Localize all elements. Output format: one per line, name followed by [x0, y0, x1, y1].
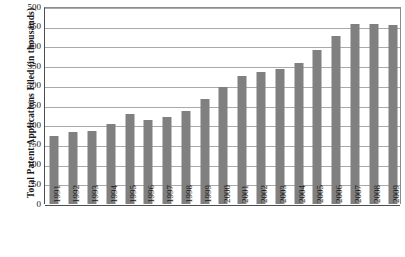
y-tick-label: 250	[20, 101, 41, 110]
bar-slot	[308, 8, 327, 204]
bar	[388, 25, 397, 204]
plot-area	[44, 7, 401, 204]
bar-chart: Total Patent Applications Filed (in thou…	[0, 0, 405, 257]
y-tick-label: 400	[20, 42, 41, 51]
y-tick-label: 300	[20, 81, 41, 90]
bar	[313, 50, 322, 204]
y-axis-tick-labels: 500450400350300250200150100500	[20, 7, 41, 204]
y-tick-label: 500	[20, 3, 41, 12]
bar-slot	[327, 8, 346, 204]
bar-slot	[233, 8, 252, 204]
x-axis-tick-labels: 1991199219931994199519961997199819992000…	[44, 205, 401, 257]
y-tick-label: 150	[20, 140, 41, 149]
bar-slot	[346, 8, 365, 204]
bar-slot	[120, 8, 139, 204]
bar	[351, 24, 360, 204]
y-tick-label: 450	[20, 22, 41, 31]
bar-slot	[364, 8, 383, 204]
bar-slot	[195, 8, 214, 204]
bar-slot	[214, 8, 233, 204]
y-tick-label: 50	[20, 180, 41, 189]
x-tick-label: 2009	[370, 205, 405, 249]
bar-slot	[64, 8, 83, 204]
bar-slot	[177, 8, 196, 204]
bar-series	[45, 8, 400, 204]
y-tick-label: 200	[20, 121, 41, 130]
bar-slot	[45, 8, 64, 204]
bar-slot	[252, 8, 271, 204]
bar-slot	[289, 8, 308, 204]
bar	[332, 36, 341, 204]
bar-slot	[101, 8, 120, 204]
bar-slot	[83, 8, 102, 204]
bar-slot	[139, 8, 158, 204]
y-tick-label: 100	[20, 160, 41, 169]
bar-slot	[383, 8, 402, 204]
bar-slot	[270, 8, 289, 204]
bar	[369, 24, 378, 204]
y-tick-label: 350	[20, 62, 41, 71]
bar-slot	[158, 8, 177, 204]
